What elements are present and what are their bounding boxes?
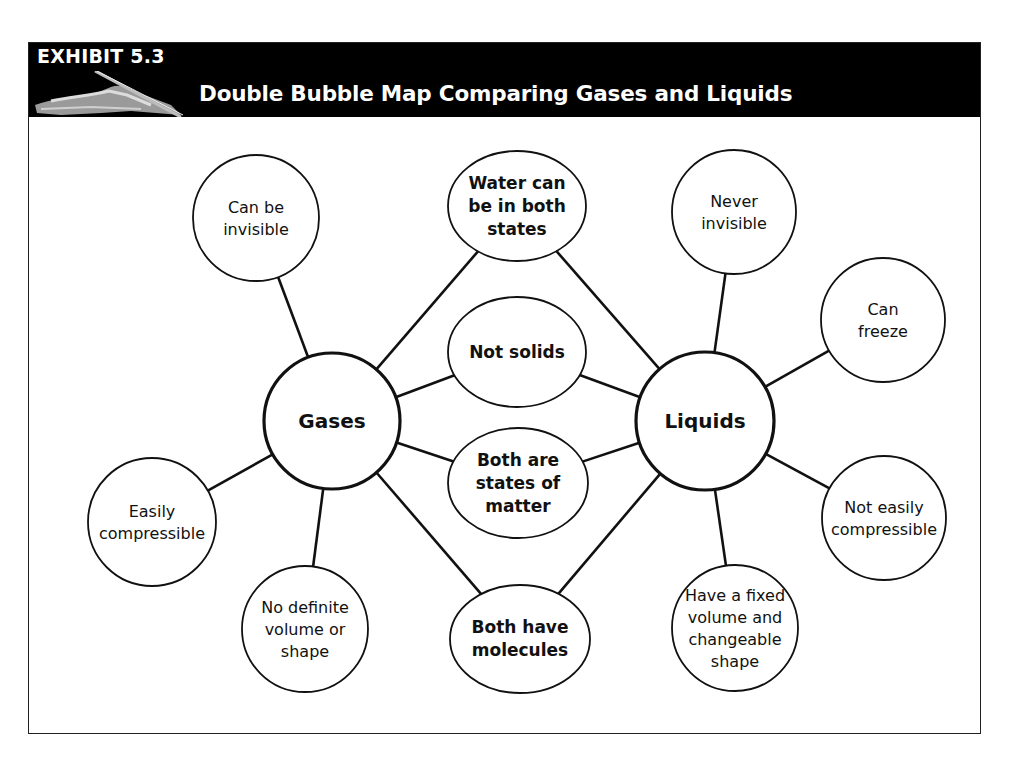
- gases-bubble-can-be-invisible: Can beinvisible: [193, 155, 319, 281]
- hub-gases: Gases: [264, 353, 400, 489]
- shared-bubble-not-solids: Not solids: [448, 297, 586, 407]
- gases-bubble-easily-compressible: Easilycompressible: [88, 458, 216, 586]
- bubble-label: Water can: [468, 173, 565, 193]
- liquids-bubble-can-freeze: Canfreeze: [821, 258, 945, 382]
- bubble-label: Have a fixed: [685, 586, 785, 605]
- connector-line: [580, 375, 641, 397]
- bubble-label: compressible: [99, 524, 205, 543]
- bubble-label: be in both: [468, 196, 566, 216]
- hub-label: Gases: [298, 409, 365, 433]
- connector-line: [397, 443, 454, 462]
- bubble-label: Never: [710, 192, 758, 211]
- shared-bubble-both-are-states-of-matter: Both arestates ofmatter: [448, 428, 588, 538]
- gases-bubble-no-definite-volume-or-shape: No definitevolume orshape: [242, 566, 368, 692]
- liquids-bubble-not-easily-compressible: Not easilycompressible: [822, 456, 946, 580]
- bubble-label: volume or: [265, 620, 346, 639]
- bubble-label: Easily: [129, 502, 176, 521]
- bubble-label: changeable: [688, 630, 781, 649]
- bubble-label: volume and: [688, 608, 782, 627]
- connector-line: [766, 454, 830, 489]
- connector-line: [208, 454, 273, 490]
- liquids-bubble-never-invisible: Neverinvisible: [672, 150, 796, 274]
- bubble-label: shape: [711, 652, 759, 671]
- bubble-label: No definite: [261, 598, 349, 617]
- bubble-label: invisible: [223, 220, 289, 239]
- bubble-label: states: [487, 219, 547, 239]
- bubble-label: shape: [281, 642, 329, 661]
- hub-liquids: Liquids: [636, 352, 774, 490]
- connector-line: [313, 488, 323, 566]
- connector-line: [278, 277, 308, 357]
- bubble-label: Not easily: [844, 498, 923, 517]
- hub-label: Liquids: [664, 409, 745, 433]
- bubble-label: Can be: [228, 198, 284, 217]
- bubble-label: Both are: [477, 450, 559, 470]
- connector-line: [715, 489, 726, 565]
- bubble-label: matter: [485, 496, 551, 516]
- bubble-label: molecules: [472, 640, 568, 660]
- shared-bubble-both-have-molecules: Both havemolecules: [450, 585, 590, 693]
- bubble-label: Can: [867, 300, 898, 319]
- connector-line: [714, 273, 725, 352]
- bubble-label: freeze: [858, 322, 908, 341]
- bubble-label: Not solids: [469, 342, 565, 362]
- bubble-label: states of: [476, 473, 561, 493]
- bubbles: Water canbe in bothstatesNot solidsBoth …: [88, 150, 946, 693]
- liquids-bubble-have-a-fixed-volume-and-changeable-shape: Have a fixedvolume andchangeableshape: [672, 565, 798, 691]
- connector-line: [765, 351, 829, 387]
- bubble-label: Both have: [472, 617, 569, 637]
- connector-line: [582, 443, 639, 462]
- double-bubble-map: Water canbe in bothstatesNot solidsBoth …: [0, 0, 1033, 775]
- bubble-label: compressible: [831, 520, 937, 539]
- shared-bubble-water-can-be-in-both-states: Water canbe in bothstates: [448, 151, 586, 261]
- connector-line: [396, 375, 455, 397]
- bubble-label: invisible: [701, 214, 767, 233]
